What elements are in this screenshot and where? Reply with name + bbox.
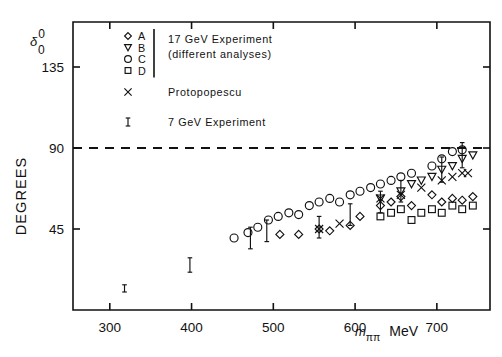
- data-point-d: [469, 202, 476, 209]
- data-point-d: [429, 206, 436, 213]
- data-point-a: [326, 227, 334, 235]
- data-point-a: [356, 212, 364, 220]
- data-point-a: [408, 202, 416, 210]
- x-tick-label-500: 500: [262, 320, 285, 335]
- legend-key-D: D: [138, 65, 146, 77]
- data-point-d: [449, 202, 456, 209]
- data-point-c: [397, 173, 405, 181]
- legend-symbol-protopopescu: [124, 88, 131, 95]
- x-tick-label-400: 400: [180, 320, 203, 335]
- data-point-b: [428, 173, 436, 180]
- data-point-c: [376, 180, 384, 188]
- legend-symbol-A: [125, 33, 132, 40]
- data-point-c: [408, 169, 416, 177]
- data-point-d: [418, 209, 425, 216]
- data-point-c: [285, 209, 293, 217]
- legend-group-label-line2: (different analyses): [168, 48, 272, 60]
- series-a: [276, 191, 477, 239]
- data-point-c: [448, 148, 456, 156]
- data-point-a: [295, 230, 303, 238]
- data-point-c: [305, 202, 313, 210]
- y-axis-symbol: δ00: [30, 27, 45, 57]
- data-point-c: [295, 211, 303, 219]
- legend-symbol-7gev: [126, 118, 131, 126]
- legend-symbol-B: [125, 45, 132, 51]
- errorbar-point: [264, 220, 269, 242]
- data-point-protopopescu: [336, 220, 344, 228]
- data-point-a: [448, 194, 456, 202]
- data-point-d: [459, 206, 466, 213]
- data-point-a: [387, 198, 395, 206]
- errorbar-point: [348, 204, 353, 226]
- legend-key-A: A: [138, 30, 146, 42]
- data-point-b: [469, 152, 477, 159]
- errorbar-point: [248, 227, 253, 249]
- x-tick-label-700: 700: [426, 320, 449, 335]
- data-point-a: [458, 196, 466, 204]
- data-point-b: [448, 163, 456, 170]
- legend-symbol-C: [125, 56, 132, 63]
- x-tick-label-300: 300: [99, 320, 122, 335]
- data-point-a: [469, 193, 477, 201]
- data-point-d: [388, 209, 395, 216]
- data-point-a: [276, 230, 284, 238]
- data-point-c: [367, 184, 375, 192]
- data-point-c: [230, 234, 238, 242]
- data-point-c: [387, 176, 395, 184]
- data-point-b: [408, 181, 416, 188]
- errorbar-point: [188, 258, 193, 272]
- data-point-protopopescu: [448, 173, 456, 181]
- data-point-d: [408, 217, 415, 224]
- legend-symbol-D: [125, 68, 131, 74]
- y-tick-label-45: 45: [49, 222, 64, 237]
- legend-group-label-line1: 17 GeV Experiment: [168, 33, 272, 45]
- legend-key-B: B: [138, 42, 146, 54]
- data-point-c: [274, 212, 282, 220]
- data-point-c: [254, 223, 262, 231]
- phase-shift-scatter-figure: 3004005006007004590135ABCD17 GeV Experim…: [0, 0, 502, 357]
- data-point-protopopescu: [464, 169, 472, 177]
- data-point-c: [356, 187, 364, 195]
- data-point-a: [428, 191, 436, 199]
- data-point-d: [397, 206, 404, 213]
- y-axis-title: DEGREES: [13, 157, 29, 236]
- data-point-c: [346, 191, 354, 199]
- data-point-c: [315, 198, 323, 206]
- y-tick-label-135: 135: [41, 60, 64, 75]
- data-point-c: [336, 198, 344, 206]
- data-point-c: [326, 194, 334, 202]
- data-point-d: [438, 209, 445, 216]
- legend-label-7gev: 7 GeV Experiment: [168, 116, 266, 128]
- x-axis-title: mππMeV: [355, 323, 419, 343]
- y-tick-label-90: 90: [49, 141, 64, 156]
- data-point-a: [438, 198, 446, 206]
- legend-key-C: C: [138, 53, 146, 65]
- data-point-c: [428, 162, 436, 170]
- data-point-d: [377, 213, 384, 220]
- data-point-b: [417, 177, 425, 184]
- plot-svg: 3004005006007004590135ABCD17 GeV Experim…: [0, 0, 502, 357]
- legend-label-protopopescu: Protopopescu: [168, 86, 242, 98]
- errorbar-point: [122, 285, 127, 292]
- series-7-gev-experiment: [122, 143, 464, 292]
